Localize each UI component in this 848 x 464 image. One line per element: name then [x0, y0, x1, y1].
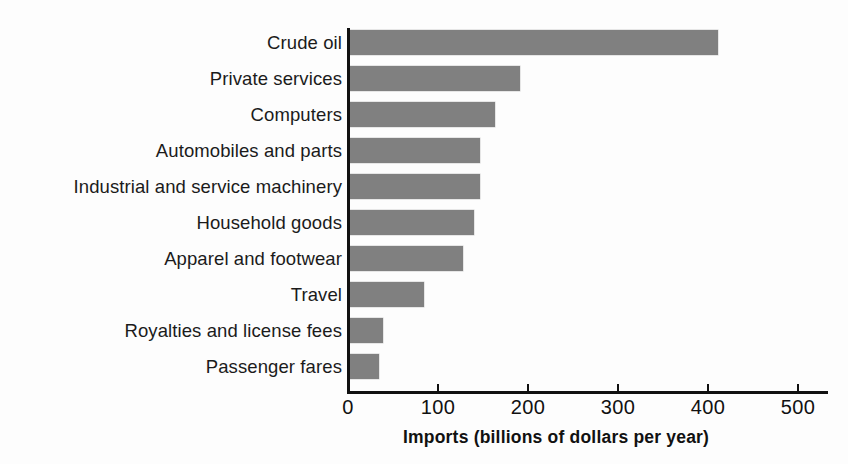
- bar-row: Automobiles and parts: [0, 138, 848, 174]
- bar: [349, 282, 424, 307]
- bar-row: Private services: [0, 66, 848, 102]
- x-tick-mark: [617, 384, 619, 392]
- bar: [349, 138, 480, 163]
- category-label: Automobiles and parts: [156, 138, 342, 163]
- bar-row: Royalties and license fees: [0, 318, 848, 354]
- x-tick-label: 400: [691, 396, 725, 419]
- x-tick-label: 0: [342, 396, 353, 419]
- bar-row: Travel: [0, 282, 848, 318]
- imports-bar-chart: Crude oilPrivate servicesComputersAutomo…: [0, 0, 848, 464]
- x-tick-mark: [707, 384, 709, 392]
- x-tick-label: 300: [601, 396, 635, 419]
- bar-row: Household goods: [0, 210, 848, 246]
- category-label: Industrial and service machinery: [74, 174, 343, 199]
- x-tick-label: 500: [781, 396, 815, 419]
- x-tick-mark: [797, 384, 799, 392]
- bar: [349, 318, 383, 343]
- bar: [349, 174, 480, 199]
- bar: [349, 102, 495, 127]
- x-tick-mark: [527, 384, 529, 392]
- bar-row: Apparel and footwear: [0, 246, 848, 282]
- bar: [349, 246, 463, 271]
- bar-row: Passenger fares: [0, 354, 848, 390]
- bar-series: Crude oilPrivate servicesComputersAutomo…: [0, 30, 848, 390]
- bar: [349, 66, 520, 91]
- category-label: Private services: [210, 66, 342, 91]
- y-axis-line: [347, 28, 350, 392]
- x-tick-mark: [437, 384, 439, 392]
- bar-row: Industrial and service machinery: [0, 174, 848, 210]
- category-label: Royalties and license fees: [124, 318, 342, 343]
- category-label: Household goods: [197, 210, 343, 235]
- category-label: Computers: [251, 102, 342, 127]
- category-label: Apparel and footwear: [164, 246, 342, 271]
- category-label: Passenger fares: [206, 354, 342, 379]
- category-label: Crude oil: [267, 30, 342, 55]
- x-axis-title: Imports (billions of dollars per year): [403, 427, 709, 448]
- category-label: Travel: [291, 282, 342, 307]
- bar: [349, 30, 718, 55]
- bar-row: Computers: [0, 102, 848, 138]
- bar-row: Crude oil: [0, 30, 848, 66]
- x-tick-label: 100: [421, 396, 455, 419]
- x-axis-line: [347, 391, 828, 394]
- plot-area: Crude oilPrivate servicesComputersAutomo…: [0, 0, 848, 464]
- bar: [349, 354, 379, 379]
- bar: [349, 210, 474, 235]
- x-tick-label: 200: [511, 396, 545, 419]
